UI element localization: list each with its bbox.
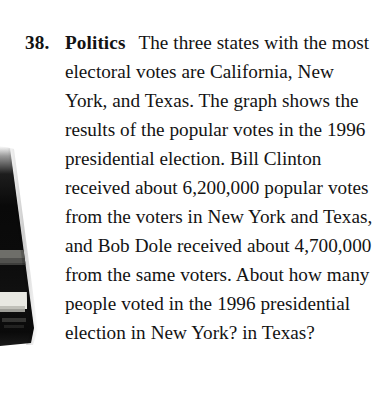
exercise-number: 38. xyxy=(25,28,61,57)
exercise-body: PoliticsThe three states with the most e… xyxy=(65,28,373,347)
scan-shadow-shape xyxy=(0,146,46,348)
exercise-problem-text: The three states with the most electoral… xyxy=(65,32,372,343)
scanned-page: 38. PoliticsThe three states with the mo… xyxy=(0,0,390,401)
scan-shadow-body xyxy=(0,146,34,346)
scan-shadow-feather xyxy=(6,147,38,345)
scan-shadow-bands xyxy=(0,250,30,328)
exercise-category-label: Politics xyxy=(65,32,125,53)
scan-edge-shadow-artifact xyxy=(0,146,46,348)
